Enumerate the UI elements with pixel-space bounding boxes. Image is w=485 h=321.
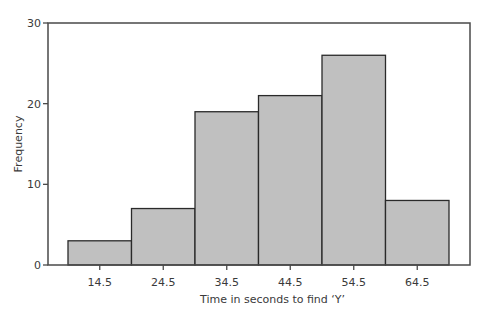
bar-54-5 bbox=[322, 55, 386, 265]
y-tick-label: 20 bbox=[27, 98, 41, 111]
x-axis: 14.524.534.544.554.564.5 bbox=[88, 265, 430, 289]
y-axis: 0102030 bbox=[27, 17, 48, 272]
y-axis-label: Frequency bbox=[12, 115, 25, 172]
x-axis-label: Time in seconds to find ‘Y’ bbox=[199, 293, 345, 306]
x-tick-label: 54.5 bbox=[342, 276, 367, 289]
bar-64-5 bbox=[386, 200, 450, 265]
x-tick-label: 44.5 bbox=[278, 276, 303, 289]
x-tick-label: 64.5 bbox=[405, 276, 430, 289]
bar-34-5 bbox=[195, 112, 259, 265]
x-tick-label: 34.5 bbox=[215, 276, 240, 289]
histogram-chart: 0102030 14.524.534.544.554.564.5 Frequen… bbox=[0, 0, 485, 321]
y-tick-label: 0 bbox=[34, 259, 41, 272]
bar-44-5 bbox=[259, 96, 323, 265]
x-tick-label: 24.5 bbox=[151, 276, 176, 289]
bar-14-5 bbox=[68, 241, 132, 265]
bar-24-5 bbox=[132, 209, 196, 265]
y-tick-label: 10 bbox=[27, 178, 41, 191]
x-tick-label: 14.5 bbox=[88, 276, 113, 289]
y-tick-label: 30 bbox=[27, 17, 41, 30]
bars-group bbox=[68, 55, 449, 265]
